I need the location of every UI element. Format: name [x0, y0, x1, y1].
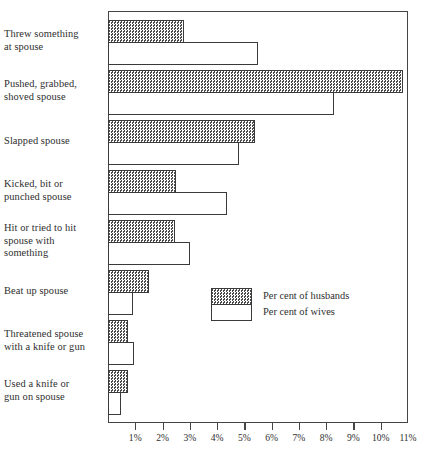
category-label-line: something [4, 247, 104, 260]
bar-husbands [108, 170, 176, 193]
axis-tick [190, 423, 191, 430]
legend-label-husbands: Per cent of husbands [263, 290, 349, 301]
category-label-line: with a knife or gun [4, 341, 104, 354]
axis-tick [353, 423, 354, 430]
category-label-line: Beat up spouse [4, 285, 104, 298]
legend-label-wives: Per cent of wives [263, 306, 335, 317]
bar-chart: Threw somethingat spousePushed, grabbed,… [0, 0, 431, 460]
axis-tick-label: 11% [399, 432, 416, 443]
axis-tick [299, 423, 300, 430]
bar-husbands [108, 320, 128, 343]
category-label-line: Threatened spouse [4, 328, 104, 341]
category-label: Used a knife orgun on spouse [4, 378, 104, 403]
category-label-line: Threw something [4, 28, 104, 41]
axis-tick [244, 423, 245, 430]
category-label-line: gun on spouse [4, 391, 104, 404]
bar-husbands [108, 370, 128, 393]
category-label: Hit or tried to hitspouse withsomething [4, 222, 104, 260]
category-label-line: Slapped spouse [4, 135, 104, 148]
axis-tick-label: 2% [156, 432, 169, 443]
category-label: Threw somethingat spouse [4, 28, 104, 53]
bar-wives [108, 292, 133, 315]
axis-tick [326, 423, 327, 430]
legend-swatch-wives [212, 305, 251, 321]
category-label-line: Used a knife or [4, 378, 104, 391]
category-label-line: punched spouse [4, 191, 104, 204]
legend-swatch-group [211, 288, 252, 321]
bar-wives [108, 392, 121, 415]
axis-tick-label: 8% [320, 432, 333, 443]
bar-wives [108, 192, 227, 215]
axis-tick-label: 6% [265, 432, 278, 443]
category-label-line: shoved spouse [4, 91, 104, 104]
axis-tick-label: 9% [347, 432, 360, 443]
axis-tick-label: 3% [183, 432, 196, 443]
axis-tick [163, 423, 164, 430]
category-axis-labels: Threw somethingat spousePushed, grabbed,… [0, 0, 104, 423]
bar-wives [108, 92, 334, 115]
bar-wives [108, 242, 190, 265]
axis-tick-label: 1% [129, 432, 142, 443]
category-label: Slapped spouse [4, 135, 104, 148]
category-label-line: Pushed, grabbed, [4, 78, 104, 91]
bar-wives [108, 342, 134, 365]
axis-tick [135, 423, 136, 430]
axis-tick [381, 423, 382, 430]
bar-husbands [108, 270, 149, 293]
axis-tick [217, 423, 218, 430]
axis-tick [272, 423, 273, 430]
axis-tick-label: 10% [372, 432, 390, 443]
legend-swatch-husbands [212, 289, 251, 305]
axis-tick-label: 5% [238, 432, 251, 443]
category-label-line: spouse with [4, 235, 104, 248]
category-label: Pushed, grabbed,shoved spouse [4, 78, 104, 103]
bar-wives [108, 42, 258, 65]
axis-tick-label: 7% [293, 432, 306, 443]
bar-husbands [108, 220, 175, 243]
bar-husbands [108, 70, 403, 93]
category-label: Threatened spousewith a knife or gun [4, 328, 104, 353]
bar-husbands [108, 20, 184, 43]
category-label: Beat up spouse [4, 285, 104, 298]
category-label-line: at spouse [4, 41, 104, 54]
bar-wives [108, 142, 239, 165]
category-label: Kicked, bit orpunched spouse [4, 178, 104, 203]
axis-tick-label: 4% [211, 432, 224, 443]
category-label-line: Kicked, bit or [4, 178, 104, 191]
category-label-line: Hit or tried to hit [4, 222, 104, 235]
bar-husbands [108, 120, 255, 143]
